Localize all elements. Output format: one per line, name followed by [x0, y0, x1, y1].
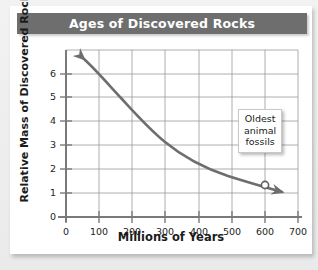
chart-title-bar: Ages of Discovered Rocks — [17, 13, 307, 34]
callout-line-1: Oldest — [244, 113, 276, 125]
y-tick-label-3: 3 — [40, 139, 56, 150]
figure-panel: Ages of Discovered Rocks Relative Mass o… — [10, 6, 312, 254]
y-tick-label-4: 4 — [40, 115, 56, 126]
oldest-animal-fossils-marker[interactable] — [261, 181, 268, 188]
y-tick-label-2: 2 — [40, 163, 56, 174]
callout-line-3: fossils — [244, 136, 276, 148]
y-tick-label-6: 6 — [40, 68, 56, 79]
figure-root: Ages of Discovered Rocks Relative Mass o… — [0, 0, 318, 270]
y-tick-label-1: 1 — [40, 187, 56, 198]
chart-title: Ages of Discovered Rocks — [17, 13, 307, 34]
chart-area: Relative Mass of Discovered Rocks — [10, 34, 312, 254]
callout-line-2: animal — [244, 125, 276, 137]
x-axis-title: Millions of Years — [40, 230, 302, 244]
y-tick-label-0: 0 — [40, 211, 56, 222]
oldest-animal-fossils-callout[interactable]: Oldest animal fossils — [238, 109, 282, 153]
y-tick-label-5: 5 — [40, 91, 56, 102]
